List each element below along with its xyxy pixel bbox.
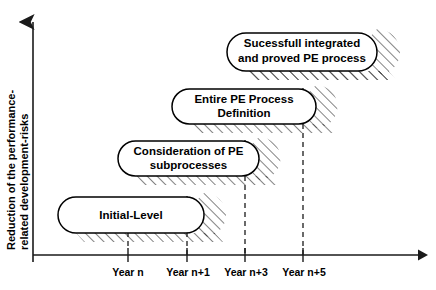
stage-2-label-line-1: Consideration of PE xyxy=(134,145,244,157)
x-tick-label-0: Year n xyxy=(112,266,144,278)
y-axis-label-line-2: related development-risks xyxy=(18,114,30,250)
y-axis-label: Reduction of the performance- related de… xyxy=(5,90,30,250)
x-axis-tick-labels: Year n Year n+1 Year n+3 Year n+5 xyxy=(112,266,326,278)
stage-4-label-line-1: Sucessfull integrated xyxy=(244,37,360,49)
y-axis-label-line-1: Reduction of the performance- xyxy=(5,90,17,250)
x-tick-label-2: Year n+3 xyxy=(224,266,268,278)
stage-2-label-line-2: subprocesses xyxy=(150,159,227,171)
x-tick-label-1: Year n+1 xyxy=(166,266,210,278)
stage-1-label-line-1: Initial-Level xyxy=(99,209,162,221)
diagram-svg: Initial-Level Consideration of PE subpro… xyxy=(0,0,436,290)
stage-3-label-line-2: Definition xyxy=(217,107,270,119)
stage-3-label-line-1: Entire PE Process xyxy=(194,93,293,105)
x-tick-label-3: Year n+5 xyxy=(282,266,326,278)
x-axis-arrowhead xyxy=(418,250,428,261)
stage-4-label-line-2: and proved PE process xyxy=(238,52,366,64)
diagram-canvas: Initial-Level Consideration of PE subpro… xyxy=(0,0,436,290)
